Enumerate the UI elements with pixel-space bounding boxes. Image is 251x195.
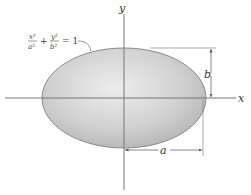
equation-term1-numerator: x² [29, 33, 36, 41]
equation-term1-denominator: a² [28, 43, 35, 51]
equation-term2-numerator: y² [50, 33, 58, 41]
equation-plus: + [40, 36, 48, 46]
equation-equals-one: = 1 [62, 36, 78, 46]
a-label: a [160, 144, 167, 157]
y-axis-label: y [118, 2, 126, 15]
b-label: b [204, 68, 211, 81]
ellipse-equation: x² a² + y² b² = 1 [28, 33, 91, 51]
x-axis-label: x [238, 92, 245, 105]
equation-term2-denominator: b² [50, 43, 57, 51]
ellipse-diagram: x y x² a² + y² b² = 1 b a [0, 0, 251, 195]
equation-leader-line [78, 41, 91, 51]
